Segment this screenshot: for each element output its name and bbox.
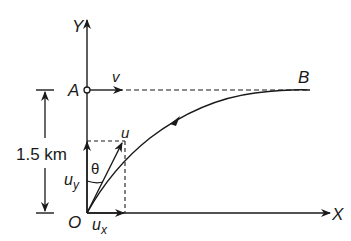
origin-label: O — [68, 213, 81, 232]
trajectory-direction-arrow — [170, 116, 180, 126]
y-axis-label: Y — [72, 17, 85, 36]
x-axis-label: X — [331, 205, 344, 224]
projectile-diagram: Y X O v A B u θ uy ux 1.5 km — [0, 0, 351, 241]
uy-label: uy — [64, 171, 80, 192]
trajectory-curve — [87, 90, 310, 213]
height-label: 1.5 km — [16, 145, 67, 164]
ux-label: ux — [92, 216, 108, 237]
v-label: v — [112, 68, 121, 85]
point-a-label: A — [67, 81, 79, 100]
point-a-marker — [84, 87, 90, 93]
u-label: u — [121, 124, 130, 141]
theta-arc — [87, 181, 103, 183]
theta-label: θ — [91, 160, 99, 177]
u-vector — [87, 143, 122, 213]
point-b-label: B — [298, 68, 309, 87]
